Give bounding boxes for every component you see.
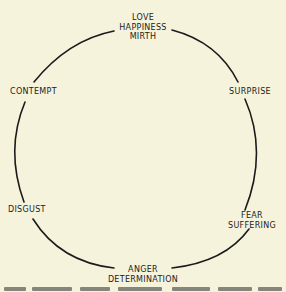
label-line: DISGUST [8, 205, 48, 215]
circle-outline [0, 0, 286, 292]
label-fear-suffering: FEAR SUFFERING [224, 211, 280, 230]
label-surprise: SURPRISE [225, 87, 275, 97]
label-disgust: DISGUST [8, 205, 48, 215]
label-line: SUFFERING [224, 221, 280, 231]
label-line: SURPRISE [225, 87, 275, 97]
label-anger-determination: ANGER DETERMINATION [103, 265, 183, 284]
label-line: HAPPINESS [113, 23, 173, 33]
label-line: CONTEMPT [10, 87, 60, 97]
label-contempt: CONTEMPT [10, 87, 60, 97]
label-line: MIRTH [113, 32, 173, 42]
emotion-circle-diagram: LOVE HAPPINESS MIRTH SURPRISE FEAR SUFFE… [0, 0, 286, 292]
label-line: ANGER [103, 265, 183, 275]
cut-off-caption [0, 286, 286, 292]
label-line: DETERMINATION [103, 275, 183, 285]
label-love-happiness-mirth: LOVE HAPPINESS MIRTH [113, 13, 173, 42]
label-line: LOVE [113, 13, 173, 23]
label-line: FEAR [224, 211, 280, 221]
